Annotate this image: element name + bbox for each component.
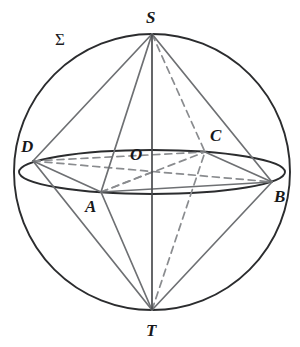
vertex-label-O: O (130, 146, 142, 163)
edge-T-A (101, 192, 152, 310)
edge-S-C-hidden (152, 34, 205, 152)
vertex-label-T: T (146, 322, 156, 339)
edge-S-A (101, 34, 152, 192)
geometry-figure: Σ S T O A B C D (0, 0, 300, 347)
edge-S-B (152, 34, 272, 182)
edge-S-D (33, 34, 152, 161)
vertex-label-C: C (210, 127, 221, 144)
vertex-label-B: B (274, 188, 285, 205)
surface-label-sigma: Σ (55, 31, 65, 48)
edge-T-C-hidden (152, 152, 205, 310)
edge-T-D (33, 161, 152, 310)
edge-D-A (33, 161, 101, 192)
vertex-label-S: S (146, 9, 155, 26)
vertex-label-A: A (85, 198, 96, 215)
vertex-label-D: D (21, 138, 33, 155)
edge-T-B (152, 182, 272, 310)
sphere-diagram-canvas (0, 0, 300, 347)
